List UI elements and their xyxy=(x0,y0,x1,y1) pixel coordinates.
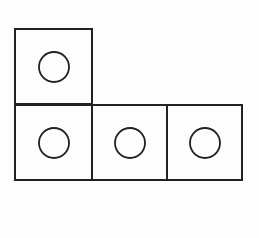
circle-icon xyxy=(115,128,145,158)
circle-icon xyxy=(39,128,69,158)
square-outline xyxy=(15,105,92,180)
square-outline xyxy=(15,29,92,104)
square-top-left xyxy=(15,29,92,104)
square-outline xyxy=(92,105,167,180)
square-net-diagram xyxy=(0,0,259,238)
square-bottom-left xyxy=(15,105,92,180)
circle-icon xyxy=(190,128,220,158)
square-bottom-right xyxy=(167,105,242,180)
circle-icon xyxy=(39,52,69,82)
square-outline xyxy=(167,105,242,180)
square-bottom-middle xyxy=(92,105,167,180)
